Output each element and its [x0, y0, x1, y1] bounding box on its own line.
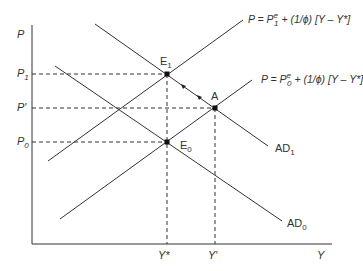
- as1-label: P = Pe1 + (1/ϕ) [Y – Y*]: [248, 11, 350, 28]
- e1-label: E1: [160, 55, 172, 70]
- point-a: [213, 106, 218, 111]
- y-axis-label: P: [17, 28, 24, 40]
- as0-curve: [60, 80, 252, 219]
- point-e1: [165, 72, 170, 77]
- as0-label: P = Pe0 + (1/ϕ) [Y – Y*]: [261, 71, 363, 88]
- ystar-label: Y*: [158, 249, 170, 261]
- p0-label: P0: [17, 135, 29, 150]
- e0-label: E0: [180, 139, 192, 154]
- ad0-label: AD0: [287, 217, 307, 232]
- point-e0: [165, 140, 170, 145]
- p1-label: P1: [17, 67, 29, 82]
- yprime-label: Y′: [208, 249, 217, 261]
- pprime-label: P′: [17, 101, 26, 113]
- ad1-label: AD1: [275, 142, 295, 157]
- x-axis-label: Y: [317, 249, 324, 261]
- a-label: A: [211, 90, 218, 102]
